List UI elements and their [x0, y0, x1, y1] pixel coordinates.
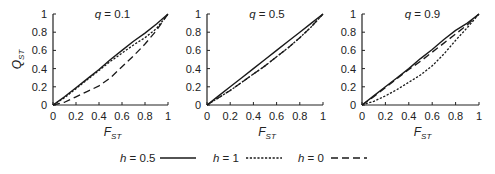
x-axis-label: FST — [104, 125, 123, 141]
panel-2: 00.20.40.60.8100.20.40.60.81q = 0.5FST — [186, 8, 326, 141]
legend-label: h = 0 — [298, 152, 324, 164]
panel-title: q = 0.5 — [249, 8, 285, 20]
y-tick-label: 0.8 — [341, 26, 356, 38]
x-tick-label: 1 — [476, 110, 482, 122]
panel-3: 00.20.40.60.8100.20.40.60.81q = 0.9FST — [341, 8, 482, 141]
x-tick-label: 1 — [165, 110, 171, 122]
panel-title: q = 0.9 — [405, 8, 441, 20]
x-tick-label: 0.6 — [114, 110, 129, 122]
x-tick-label: 0.2 — [378, 110, 393, 122]
y-tick-label: 1 — [350, 8, 356, 20]
y-tick-label: 0.6 — [341, 44, 356, 56]
panel-title: q = 0.1 — [95, 8, 131, 20]
x-tick-label: 0.6 — [269, 110, 284, 122]
series-line-solid — [207, 14, 323, 105]
figure: 00.20.40.60.8100.20.40.60.81q = 0.1FSTQS… — [0, 0, 495, 174]
x-axis-label: FST — [258, 125, 277, 141]
y-tick-label: 0.2 — [186, 81, 201, 93]
x-tick-label: 0.6 — [425, 110, 440, 122]
y-tick-label: 0 — [41, 99, 47, 111]
legend-label: h = 1 — [213, 152, 239, 164]
y-tick-label: 0 — [350, 99, 356, 111]
x-tick-label: 0.8 — [292, 110, 307, 122]
y-tick-label: 0.8 — [32, 26, 47, 38]
x-tick-label: 0.4 — [246, 110, 261, 122]
y-tick-label: 0.6 — [186, 44, 201, 56]
y-tick-label: 0.4 — [341, 63, 356, 75]
x-tick-label: 0 — [50, 110, 56, 122]
legend-label: h = 0.5 — [120, 152, 156, 164]
x-tick-label: 0.8 — [448, 110, 463, 122]
y-tick-label: 0.4 — [32, 63, 47, 75]
x-tick-label: 1 — [320, 110, 326, 122]
series-line-solid — [362, 14, 479, 105]
x-tick-label: 0 — [204, 110, 210, 122]
x-tick-label: 0 — [359, 110, 365, 122]
y-tick-label: 0.4 — [186, 63, 201, 75]
y-tick-label: 0.8 — [186, 26, 201, 38]
y-tick-label: 0 — [195, 99, 201, 111]
y-tick-label: 0.6 — [32, 44, 47, 56]
x-tick-label: 0.4 — [401, 110, 416, 122]
x-axis-label: FST — [414, 125, 433, 141]
x-tick-label: 0.2 — [223, 110, 238, 122]
x-tick-label: 0.4 — [91, 110, 106, 122]
x-tick-label: 0.2 — [68, 110, 83, 122]
panel-1: 00.20.40.60.8100.20.40.60.81q = 0.1FSTQS… — [10, 8, 171, 141]
series-line-solid — [53, 14, 168, 105]
legend: h = 0.5h = 1h = 0 — [120, 152, 367, 164]
y-tick-label: 0.2 — [32, 81, 47, 93]
y-tick-label: 0.2 — [341, 81, 356, 93]
y-tick-label: 1 — [41, 8, 47, 20]
y-tick-label: 1 — [195, 8, 201, 20]
y-axis-label: QST — [10, 49, 26, 70]
x-tick-label: 0.8 — [137, 110, 152, 122]
